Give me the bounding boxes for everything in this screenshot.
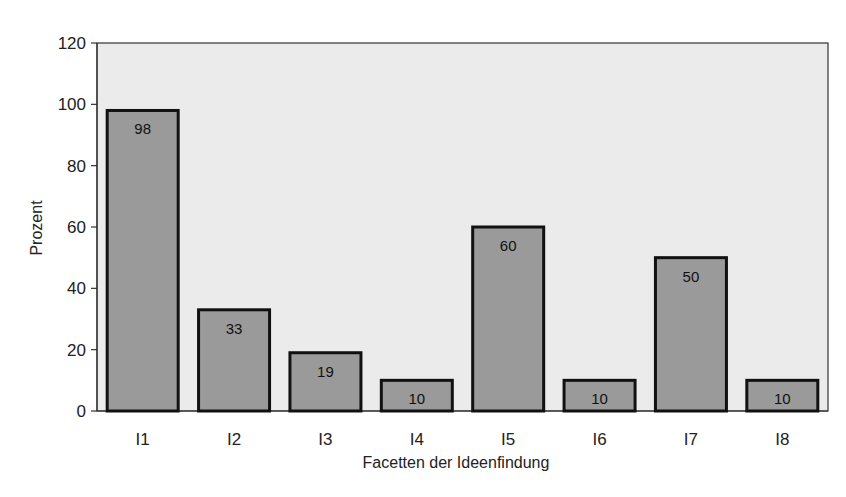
x-tick-label: I7 [684, 430, 698, 449]
bar-value-label: 98 [134, 120, 151, 137]
y-tick-label: 60 [67, 218, 86, 237]
x-axis-title: Facetten der Ideenfindung [363, 454, 550, 471]
bar-i4: 10 [381, 380, 452, 411]
bar-i3: 19 [290, 353, 361, 411]
bar-i7: 50 [655, 258, 726, 411]
bar-value-label: 19 [317, 363, 334, 380]
x-tick-label: I8 [775, 430, 789, 449]
bar-value-label: 33 [226, 320, 243, 337]
x-tick-label: I5 [501, 430, 515, 449]
bar-rect [107, 110, 178, 411]
y-tick-label: 20 [67, 341, 86, 360]
x-tick-label: I3 [318, 430, 332, 449]
y-tick-label: 40 [67, 279, 86, 298]
bar-i2: 33 [199, 310, 270, 411]
x-tick-label: I4 [410, 430, 424, 449]
bar-value-label: 50 [683, 268, 700, 285]
bar-i6: 10 [564, 380, 635, 411]
bar-i5: 60 [473, 227, 544, 411]
bar-chart: 020406080100120 I1I2I3I4I5I6I7I8 9833191… [0, 0, 846, 497]
bar-value-label: 10 [408, 390, 425, 407]
x-tick-label: I2 [227, 430, 241, 449]
bar-i1: 98 [107, 110, 178, 411]
x-axis: I1I2I3I4I5I6I7I8 [97, 411, 828, 449]
bar-value-label: 10 [774, 390, 791, 407]
y-tick-label: 120 [58, 34, 86, 53]
y-tick-label: 0 [77, 402, 86, 421]
bar-value-label: 60 [500, 237, 517, 254]
x-tick-label: I6 [592, 430, 606, 449]
y-tick-label: 80 [67, 157, 86, 176]
bar-i8: 10 [747, 380, 818, 411]
y-tick-label: 100 [58, 95, 86, 114]
y-axis-title: Prozent [28, 200, 45, 256]
x-tick-label: I1 [136, 430, 150, 449]
y-axis: 020406080100120 [58, 34, 97, 421]
bar-value-label: 10 [591, 390, 608, 407]
bar-rect [473, 227, 544, 411]
bar-rect [290, 353, 361, 411]
